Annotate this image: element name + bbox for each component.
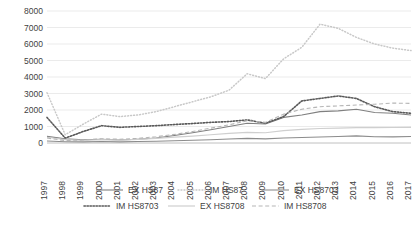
y-axis-tick-label: 8000 — [24, 6, 43, 16]
x-axis-tick-label: 1999 — [75, 181, 85, 200]
legend-label-ex-hs87: EX HS87 — [128, 185, 163, 195]
legend-label-im-hs8703: IM HS8703 — [116, 201, 159, 211]
legend-label-ex-hs8703: EX HS8703 — [294, 185, 339, 195]
x-axis-tick-label: 2017 — [403, 181, 413, 200]
series-line-im-hs8703 — [47, 96, 411, 138]
data-series-group — [47, 24, 411, 142]
x-axis-tick-label: 2016 — [385, 181, 395, 200]
chart-canvas: 010002000300040005000600070008000 199719… — [0, 0, 414, 229]
y-axis-tick-label: 5000 — [24, 56, 43, 66]
y-axis-tick-label: 7000 — [24, 23, 43, 33]
x-axis-tick-label: 2015 — [367, 181, 377, 200]
y-axis-tick-label: 1000 — [24, 122, 43, 132]
x-axis-tick-label: 2004 — [166, 181, 176, 200]
legend-label-im-hs87: IM HS87 — [210, 185, 243, 195]
y-axis-tick-label: 4000 — [24, 72, 43, 82]
y-axis-tick-label: 6000 — [24, 39, 43, 49]
x-axis-tick-label: 2014 — [348, 181, 358, 200]
y-axis-tick-label: 2000 — [24, 105, 43, 115]
legend-label-ex-hs8708: EX HS8708 — [200, 201, 245, 211]
legend-label-im-hs8708: IM HS8708 — [284, 201, 327, 211]
grid-lines — [47, 11, 411, 143]
y-axis-tick-labels: 010002000300040005000600070008000 — [24, 6, 43, 148]
y-axis-tick-label: 3000 — [24, 89, 43, 99]
x-axis-tick-label: 1997 — [39, 181, 49, 200]
x-axis-tick-label: 1998 — [57, 181, 67, 200]
series-line-im-hs87 — [47, 24, 411, 135]
line-chart: 010002000300040005000600070008000 199719… — [0, 0, 414, 229]
y-axis-tick-label: 0 — [38, 138, 43, 148]
